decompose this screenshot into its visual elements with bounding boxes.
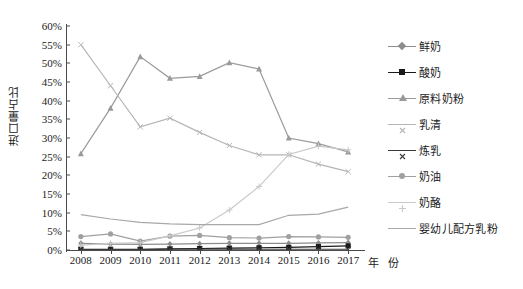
- series-6: [78, 143, 352, 248]
- data-point-marker: [167, 241, 172, 247]
- data-point-marker: [78, 42, 83, 47]
- x-tick-label: 2014: [248, 254, 270, 266]
- y-tick-label: 35%: [28, 113, 62, 125]
- x-axis-title: 年 份: [368, 254, 402, 270]
- data-point-marker: [167, 233, 173, 239]
- data-point-marker: [108, 83, 113, 88]
- data-point-marker: [107, 240, 113, 246]
- y-tick-label: 0%: [28, 244, 62, 256]
- x-tick-label: 2016: [307, 254, 329, 266]
- series-line: [81, 234, 348, 241]
- x-tick-label: 2011: [159, 254, 181, 266]
- series-2: [78, 53, 351, 156]
- y-tick-label: 10%: [28, 207, 62, 219]
- legend-item-2[interactable]: 原料奶粉: [388, 85, 520, 111]
- data-point-marker: [137, 53, 143, 59]
- data-point-marker: [108, 105, 114, 111]
- data-point-marker: [197, 233, 202, 238]
- data-point-marker: [227, 235, 232, 240]
- data-point-marker: [197, 225, 203, 231]
- x-tick-label: 2008: [70, 254, 92, 266]
- series-line: [81, 207, 348, 225]
- legend-swatch-icon: [388, 40, 416, 52]
- series-7: [81, 207, 348, 225]
- legend-item-label: 酸奶: [416, 64, 442, 80]
- y-tick-label: 45%: [28, 76, 62, 88]
- data-point-marker: [78, 234, 83, 239]
- legend-swatch-icon: [388, 66, 416, 78]
- series-5: [78, 231, 351, 243]
- x-tick-label: 2012: [189, 254, 211, 266]
- legend-item-label: 鲜奶: [416, 38, 442, 54]
- legend-swatch-icon: [388, 170, 416, 182]
- legend-item-label: 乳清: [416, 116, 442, 132]
- plot-area: [66, 26, 363, 250]
- y-tick-label: 20%: [28, 169, 62, 181]
- legend-item-7[interactable]: 婴幼儿配方乳粉: [388, 215, 520, 241]
- y-axis-title: 进口量占比: [6, 86, 22, 146]
- data-point-marker: [197, 130, 202, 135]
- chart-legend: 鲜奶酸奶原料奶粉乳清炼乳奶油奶酪婴幼儿配方乳粉: [388, 33, 520, 241]
- legend-item-label: 原料奶粉: [416, 90, 464, 106]
- legend-swatch-icon: [388, 222, 416, 234]
- legend-item-4[interactable]: 炼乳: [388, 137, 520, 163]
- x-tick-label: 2013: [218, 254, 240, 266]
- data-point-marker: [197, 241, 202, 247]
- y-tick-label: 40%: [28, 95, 62, 107]
- chart-figure: 进口量占比 0%5%10%15%20%25%30%35%40%45%50%55%…: [0, 0, 523, 289]
- data-point-marker: [316, 244, 321, 249]
- legend-item-3[interactable]: 乳清: [388, 111, 520, 137]
- y-tick-label: 15%: [28, 188, 62, 200]
- data-point-marker: [345, 147, 351, 153]
- y-tick-label: 50%: [28, 57, 62, 69]
- y-tick-label: 25%: [28, 151, 62, 163]
- data-point-marker: [256, 240, 261, 246]
- data-point-marker: [286, 135, 292, 141]
- legend-swatch-icon: [388, 92, 416, 104]
- x-tick-label: 2015: [278, 254, 300, 266]
- y-tick-label: 60%: [28, 20, 62, 32]
- y-axis-tick-labels: 0%5%10%15%20%25%30%35%40%45%50%55%60%: [26, 26, 62, 250]
- legend-swatch-icon: [388, 118, 416, 130]
- legend-item-6[interactable]: 奶酪: [388, 189, 520, 215]
- legend-item-0[interactable]: 鲜奶: [388, 33, 520, 59]
- series-3: [78, 42, 351, 174]
- y-tick-label: 5%: [28, 225, 62, 237]
- x-axis-tick-labels: 2008200920102011201220132014201520162017: [66, 252, 363, 270]
- y-tick-label: 55%: [28, 39, 62, 51]
- data-point-marker: [108, 231, 113, 236]
- legend-item-label: 奶油: [416, 168, 442, 184]
- series-line: [81, 45, 348, 172]
- data-point-marker: [256, 235, 261, 240]
- x-tick-label: 2017: [337, 254, 359, 266]
- legend-item-label: 奶酪: [416, 194, 442, 210]
- data-point-marker: [316, 234, 321, 239]
- legend-swatch-icon: [388, 196, 416, 208]
- x-tick-label: 2010: [129, 254, 151, 266]
- legend-item-1[interactable]: 酸奶: [388, 59, 520, 85]
- legend-item-5[interactable]: 奶油: [388, 163, 520, 189]
- legend-swatch-icon: [388, 144, 416, 156]
- y-tick-label: 30%: [28, 132, 62, 144]
- data-point-marker: [226, 59, 232, 65]
- data-point-marker: [346, 235, 351, 240]
- legend-item-label: 炼乳: [416, 142, 442, 158]
- x-tick-label: 2009: [100, 254, 122, 266]
- data-point-marker: [286, 234, 291, 239]
- legend-item-label: 婴幼儿配方乳粉: [416, 220, 498, 236]
- data-point-marker: [227, 240, 232, 246]
